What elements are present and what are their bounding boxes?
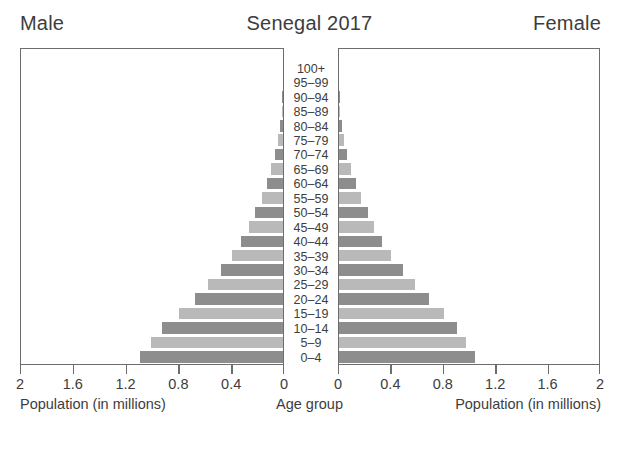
female-bar-15-19 — [339, 308, 444, 320]
bar-row — [339, 104, 599, 118]
bar-row — [21, 176, 283, 190]
axis-tick-label: 1.2 — [485, 376, 505, 393]
male-bar-35-39 — [232, 250, 283, 262]
male-bar-85-89 — [282, 106, 283, 118]
female-bar-20-24 — [339, 293, 429, 305]
age-group-label: 45–49 — [284, 221, 338, 235]
bar-row — [339, 263, 599, 277]
age-group-label: 25–29 — [284, 278, 338, 292]
population-pyramid-figure: Male Senegal 2017 Female 100+95–9990–948… — [0, 0, 619, 451]
bar-row — [339, 234, 599, 248]
age-group-axis: 100+95–9990–9485–8980–8475–7970–7465–696… — [284, 48, 338, 365]
female-bar-75-79 — [339, 134, 344, 146]
age-group-label: 75–79 — [284, 134, 338, 148]
female-bar-80-84 — [339, 120, 342, 132]
age-group-label: 0–4 — [284, 351, 338, 365]
female-plot-panel — [338, 48, 600, 365]
right-axis-title: Population (in millions) — [455, 395, 601, 414]
axis-tick — [178, 365, 179, 374]
male-bar-60-64 — [267, 178, 283, 190]
bar-row — [339, 119, 599, 133]
bar-row — [21, 147, 283, 161]
male-bar-0-4 — [140, 351, 283, 363]
age-group-label: 55–59 — [284, 192, 338, 206]
age-group-label: 65–69 — [284, 163, 338, 177]
bar-row — [339, 133, 599, 147]
male-bar-25-29 — [208, 279, 283, 291]
axis-tick — [443, 365, 444, 374]
bar-row — [339, 61, 599, 75]
age-group-label: 35–39 — [284, 250, 338, 264]
age-group-label: 90–94 — [284, 91, 338, 105]
female-bar-35-39 — [339, 250, 391, 262]
bar-row — [339, 90, 599, 104]
axis-tick-label: 2 — [596, 376, 604, 393]
bar-row — [21, 133, 283, 147]
bar-row — [21, 321, 283, 335]
female-bar-25-29 — [339, 279, 415, 291]
bar-row — [339, 147, 599, 161]
male-bar-80-84 — [280, 120, 283, 132]
axis-tick — [338, 365, 339, 374]
chart-title: Senegal 2017 — [0, 10, 619, 36]
age-group-label: 85–89 — [284, 105, 338, 119]
bar-row — [339, 277, 599, 291]
axis-tick-label: 0 — [334, 376, 342, 393]
male-bar-65-69 — [271, 163, 283, 175]
male-bar-90-94 — [282, 91, 283, 103]
axis-tick-label: 1.6 — [63, 376, 83, 393]
bar-row — [339, 162, 599, 176]
female-bar-30-34 — [339, 264, 403, 276]
female-bar-0-4 — [339, 351, 475, 363]
axis-tick — [283, 365, 284, 374]
bar-row — [339, 249, 599, 263]
axis-tick-label: 0 — [280, 376, 288, 393]
age-group-label: 20–24 — [284, 293, 338, 307]
bar-row — [21, 162, 283, 176]
axis-tick — [390, 365, 391, 374]
axis-tick-label: 0.8 — [433, 376, 453, 393]
bar-row — [339, 321, 599, 335]
age-group-label: 70–74 — [284, 148, 338, 162]
male-bar-30-34 — [221, 264, 283, 276]
male-bar-75-79 — [278, 134, 283, 146]
male-bar-55-59 — [262, 192, 283, 204]
female-bar-60-64 — [339, 178, 356, 190]
male-bar-group — [21, 49, 283, 364]
bar-row — [21, 306, 283, 320]
bar-row — [339, 205, 599, 219]
axis-tick-label: 0.4 — [221, 376, 241, 393]
axis-tick-label: 1.6 — [538, 376, 558, 393]
bar-row — [339, 75, 599, 89]
bar-row — [339, 220, 599, 234]
female-bar-10-14 — [339, 322, 457, 334]
male-bar-40-44 — [241, 236, 283, 248]
axis-tick — [548, 365, 549, 374]
male-bar-5-9 — [151, 337, 283, 349]
bar-row — [21, 75, 283, 89]
female-side-label: Female — [533, 10, 601, 36]
bar-row — [339, 176, 599, 190]
age-group-label: 100+ — [284, 62, 338, 76]
bar-row — [21, 90, 283, 104]
female-bar-55-59 — [339, 192, 361, 204]
bar-row — [339, 350, 599, 364]
axis-tick — [495, 365, 496, 374]
female-bar-40-44 — [339, 236, 382, 248]
female-bar-5-9 — [339, 337, 466, 349]
bar-row — [339, 191, 599, 205]
bar-row — [21, 277, 283, 291]
age-group-label: 15–19 — [284, 307, 338, 321]
bar-row — [21, 335, 283, 349]
age-group-label: 60–64 — [284, 177, 338, 191]
female-bar-group — [339, 49, 599, 364]
age-group-label: 10–14 — [284, 322, 338, 336]
male-bar-15-19 — [179, 308, 283, 320]
axis-tick-label: 0.4 — [380, 376, 400, 393]
age-group-label: 40–44 — [284, 235, 338, 249]
bar-row — [21, 119, 283, 133]
bar-row — [21, 263, 283, 277]
age-group-label: 5–9 — [284, 336, 338, 350]
bar-row — [21, 61, 283, 75]
bar-row — [21, 220, 283, 234]
